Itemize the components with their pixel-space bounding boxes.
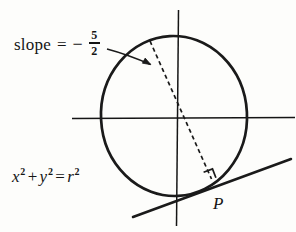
point-p-label: P: [213, 195, 223, 212]
circle-equation: x2+y2=r2: [12, 168, 80, 185]
circle: [97, 32, 251, 199]
tangent-line: [133, 159, 291, 217]
slope-numerator: 5: [89, 29, 99, 42]
slope-minus-sign: −: [72, 35, 83, 53]
equation-x-term: x: [12, 167, 20, 186]
equation-r-term: r: [67, 167, 74, 186]
tangent-circle-diagram: slope = − 5 2 x2+y2=r2 P: [0, 0, 296, 232]
right-angle-icon: [204, 169, 216, 178]
y-axis: [177, 10, 179, 226]
equation-r-exponent: 2: [74, 166, 80, 177]
slope-annotation: slope = − 5 2: [14, 30, 100, 58]
slope-word: slope: [14, 36, 51, 53]
equation-plus-sign: +: [26, 167, 40, 186]
slope-fraction: 5 2: [89, 29, 100, 57]
slope-denominator: 2: [89, 44, 99, 57]
slope-equals-sign: =: [56, 36, 68, 53]
radius-dashed-line: [150, 41, 212, 179]
equation-equals-sign: =: [53, 167, 67, 186]
equation-x-exponent: 2: [20, 166, 26, 177]
